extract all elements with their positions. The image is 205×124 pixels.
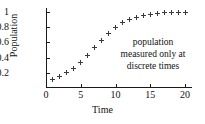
annotation-line: population bbox=[104, 36, 202, 48]
y-tick-label: 0.2 bbox=[0, 68, 9, 78]
x-tick-label: 20 bbox=[170, 90, 200, 100]
data-point-marker bbox=[127, 17, 132, 22]
chart-annotation: populationmeasured only atdiscrete times bbox=[104, 36, 202, 72]
y-tick-label: 0.4 bbox=[0, 53, 9, 63]
x-axis-title: Time bbox=[0, 104, 205, 115]
x-tick-label: 5 bbox=[66, 90, 96, 100]
data-point-marker bbox=[183, 10, 188, 15]
x-tick-label: 15 bbox=[135, 90, 165, 100]
y-tick-mark bbox=[47, 12, 50, 13]
y-tick-mark bbox=[47, 58, 50, 59]
x-tick-label: 10 bbox=[101, 90, 131, 100]
x-tick-mark bbox=[185, 84, 186, 87]
figure-logistic-growth-chart: Population Time 0.20.40.60.81 05101520 p… bbox=[0, 0, 205, 124]
y-tick-mark bbox=[47, 42, 50, 43]
y-tick-label: 1 bbox=[0, 7, 9, 17]
y-tick-label: 0.6 bbox=[0, 37, 9, 47]
y-axis-line bbox=[46, 8, 47, 88]
y-axis-title: Population bbox=[8, 14, 19, 57]
data-point-marker bbox=[162, 10, 167, 15]
x-tick-label: 0 bbox=[31, 90, 61, 100]
data-point-marker bbox=[155, 11, 160, 16]
y-tick-mark bbox=[47, 73, 50, 74]
y-tick-label: 0.8 bbox=[0, 22, 9, 32]
data-point-marker bbox=[141, 13, 146, 18]
x-tick-mark bbox=[81, 84, 82, 87]
data-point-marker bbox=[57, 74, 62, 79]
x-axis-line bbox=[46, 87, 192, 88]
data-point-marker bbox=[106, 31, 111, 36]
data-point-marker bbox=[176, 10, 181, 15]
data-point-marker bbox=[92, 45, 97, 50]
data-point-marker bbox=[71, 66, 76, 71]
data-point-marker bbox=[134, 15, 139, 20]
data-point-marker bbox=[85, 53, 90, 58]
data-point-marker bbox=[169, 10, 174, 15]
annotation-line: discrete times bbox=[104, 60, 202, 72]
data-point-marker bbox=[78, 60, 83, 65]
data-point-marker bbox=[120, 20, 125, 25]
data-point-marker bbox=[148, 12, 153, 17]
data-point-marker bbox=[64, 70, 69, 75]
x-tick-mark bbox=[150, 84, 151, 87]
x-tick-mark bbox=[116, 84, 117, 87]
y-tick-mark bbox=[47, 27, 50, 28]
annotation-line: measured only at bbox=[104, 48, 202, 60]
data-point-marker bbox=[50, 77, 55, 82]
data-point-marker bbox=[113, 25, 118, 30]
